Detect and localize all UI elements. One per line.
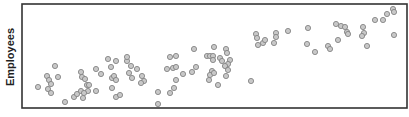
data-point: [360, 24, 365, 29]
data-point: [254, 35, 259, 40]
data-point: [155, 101, 160, 106]
data-point: [173, 64, 178, 69]
data-point: [189, 69, 194, 74]
data-point: [167, 90, 172, 95]
data-point: [109, 85, 114, 90]
data-point: [86, 82, 91, 87]
data-point: [117, 92, 122, 97]
data-point: [113, 77, 118, 82]
data-point: [180, 71, 185, 76]
data-point: [327, 46, 332, 51]
data-point: [345, 31, 350, 36]
data-point: [364, 43, 369, 48]
data-point: [285, 28, 290, 33]
data-point: [211, 44, 216, 49]
data-point: [55, 74, 60, 79]
data-point: [380, 17, 385, 22]
data-point: [225, 67, 230, 72]
data-point: [271, 40, 276, 45]
data-point: [191, 46, 196, 51]
data-point: [342, 24, 347, 29]
data-point: [273, 34, 278, 39]
data-point: [211, 70, 216, 75]
data-point: [219, 58, 224, 63]
data-point: [48, 90, 53, 95]
data-point: [391, 9, 396, 14]
data-point: [81, 90, 86, 95]
data-point: [305, 25, 310, 30]
data-point: [206, 77, 211, 82]
data-point: [98, 71, 103, 76]
data-point: [138, 80, 143, 85]
data-point: [134, 66, 139, 71]
data-point: [304, 41, 309, 46]
data-point: [335, 37, 340, 42]
data-point: [93, 88, 98, 93]
data-point: [173, 77, 178, 82]
data-point: [210, 57, 215, 62]
y-axis-label: Employees: [4, 28, 16, 86]
data-point: [93, 66, 98, 71]
data-point: [80, 95, 85, 100]
data-point: [108, 64, 113, 69]
data-point: [52, 63, 57, 68]
data-point: [129, 75, 134, 80]
data-point: [384, 11, 389, 16]
data-point: [372, 17, 377, 22]
data-point: [391, 32, 396, 37]
data-point: [359, 33, 364, 38]
data-point: [139, 73, 144, 78]
data-point: [262, 37, 267, 42]
data-point: [171, 85, 176, 90]
data-point: [223, 73, 228, 78]
data-point: [124, 54, 129, 59]
data-point: [78, 69, 83, 74]
data-point: [105, 56, 110, 61]
data-point: [248, 78, 253, 83]
data-point: [48, 81, 53, 86]
data-point: [128, 63, 133, 68]
data-point: [224, 50, 229, 55]
data-point: [82, 76, 87, 81]
data-point: [333, 21, 338, 26]
scatter-chart: Employees: [0, 0, 409, 117]
data-point: [312, 49, 317, 54]
data-point: [164, 66, 169, 71]
data-point: [255, 42, 260, 47]
data-point: [167, 54, 172, 59]
data-point: [126, 70, 131, 75]
data-point: [173, 53, 178, 58]
data-point: [113, 58, 118, 63]
data-point: [193, 64, 198, 69]
data-point: [215, 82, 220, 87]
data-point: [35, 84, 40, 89]
data-point: [62, 99, 67, 104]
data-point: [155, 89, 160, 94]
